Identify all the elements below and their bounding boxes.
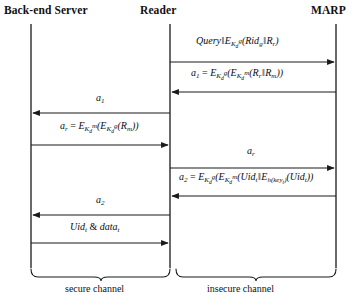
brace-secure bbox=[31, 269, 170, 281]
sequence-diagram-canvas bbox=[0, 0, 361, 308]
actor-label-marp: MARP bbox=[311, 4, 346, 16]
message-label-2: a1 = EKdg(EKdm(Rr‖Rm)) bbox=[191, 68, 283, 78]
actor-label-reader: Reader bbox=[140, 4, 176, 16]
actor-label-backend: Back-end Server bbox=[4, 4, 88, 16]
message-label-6: a2 = EKdg(EKdm(Uidt‖Eh(keyt)(Uidt)) bbox=[179, 172, 313, 182]
message-arrows bbox=[31, 62, 336, 243]
message-label-8: Uidt & datat bbox=[70, 222, 119, 232]
message-label-3: a1 bbox=[96, 93, 105, 103]
channel-label-insecure: insecure channel bbox=[207, 283, 274, 294]
channel-label-secure: secure channel bbox=[65, 283, 124, 294]
message-label-1: Query‖EKdg(Ridg‖Rr) bbox=[196, 36, 279, 46]
message-label-4: ar = EKdm(EKdg(Rm)) bbox=[60, 121, 139, 131]
message-label-5: ar bbox=[247, 146, 255, 156]
channel-braces bbox=[31, 269, 336, 281]
message-label-7: a2 bbox=[96, 195, 105, 205]
brace-insecure bbox=[176, 269, 336, 281]
